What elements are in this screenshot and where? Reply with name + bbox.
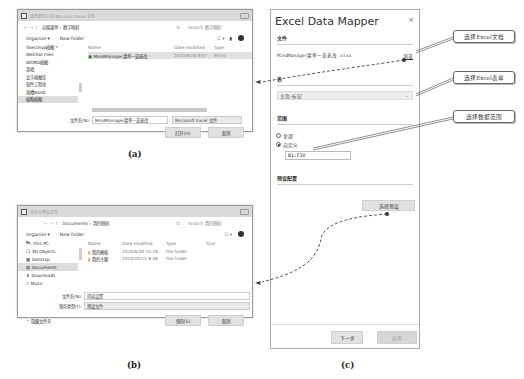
dialog-b-buttons: 保存(S) 取消 [165,315,244,326]
column-name[interactable]: Name [88,241,122,246]
savetype-select[interactable]: 预设文件 [84,302,250,310]
radio-custom[interactable]: 自定义 [276,140,419,149]
filename-row: 文件名(N): 简易设置 [18,291,252,301]
close-window-button[interactable] [240,209,249,215]
folder-type: File folder [166,249,187,254]
filename-input[interactable]: MindManager菜单一览表改 [92,116,168,124]
folder-row[interactable]: ▮ 我的主题 2020/10/15 8:48 File folder [88,255,252,262]
range-section-heading: 范围 [277,114,413,125]
nav-item[interactable]: SketchUp插图 * [18,43,78,51]
desktop-icon: ▦ [26,257,30,262]
help-icon[interactable] [238,231,244,237]
folder-date: 2020/10/15 8:48 [122,256,166,261]
callout-choose-data-range: 选择数据范围 [453,110,515,123]
command-bar: Organize ▾ New folder ☷ ▾ ▮ [18,33,252,43]
cancel-button[interactable]: 取消 [208,127,244,138]
horizontal-scrollbar[interactable] [22,107,248,113]
nav-item-3d-objects[interactable]: ❒3D Objects [18,247,78,255]
dialog-b-titlebar: 另存为预设文件 [18,206,252,217]
next-button[interactable]: 下一步 [331,331,363,344]
folder-row[interactable]: ▮ 我的模板 2020/6/30 15:28 File folder [88,248,252,255]
nav-scrollbar[interactable] [78,43,84,107]
sheet-section-heading: 表 [277,75,413,86]
open-button[interactable]: 打开(O) [165,127,201,138]
view-options-icon[interactable]: ☷ ▾ [217,36,225,41]
nav-item[interactable]: 会字插图库 [18,73,78,81]
callout-choose-excel-document: 选择Excel文档 [453,30,515,43]
view-options-icon[interactable]: ☷ ▾ [224,232,232,237]
dialog-b-title: 另存为预设文件 [30,209,240,215]
browse-link[interactable]: 浏览 [403,52,413,59]
hide-folders-toggle[interactable]: ⌃ 隐藏文件夹 [26,318,165,324]
breadcrumb[interactable]: Documents › 我的映射 [62,220,176,226]
nav-item-desktop[interactable]: ▦Desktop [18,255,78,263]
column-type[interactable]: Type [166,241,206,246]
choose-preset-button[interactable]: 选择预设 [362,200,415,211]
file-section-heading: 文件 [277,34,413,45]
music-icon: ♪ [26,281,29,286]
caption-b: (b) [127,360,141,370]
panel-title: Excel Data Mapper [271,10,419,28]
filetype-select[interactable]: Microsoft Excel 文件 [172,116,242,124]
preview-pane-icon[interactable]: ▮ [230,36,232,41]
file-row[interactable]: ▣ MindManager菜单一览表改 2020/6/28 8:07 Micro [88,52,252,59]
cancel-button[interactable]: 取消 [208,315,244,326]
refresh-icon[interactable]: ↻ [176,25,180,30]
column-type[interactable]: Type [214,45,224,50]
save-button[interactable]: 保存(S) [165,315,201,326]
column-date-modified[interactable]: Date modified [122,241,166,246]
documents-icon: ▤ [26,265,30,270]
filename-input[interactable]: 简易设置 [84,292,250,300]
folder-name: ▮ 我的主题 [88,256,122,262]
nav-item-downloads[interactable]: ⬇Downloads [18,271,78,279]
folder-name: ▮ 我的模板 [88,249,122,255]
radio-button-checked[interactable] [276,142,281,147]
close-window-button[interactable] [240,13,249,19]
organize-button[interactable]: Organize ▾ [26,36,50,41]
file-list-header: Name Date modified Type Size [88,239,252,248]
nav-arrows[interactable]: ← → ↑ [24,25,38,30]
nav-item-documents[interactable]: ▤Documents [18,263,78,271]
nav-scrollbar[interactable] [78,239,84,289]
app-icon [21,13,27,19]
open-file-dialog: 选择要导入的 Microsoft Excel 文件 ← → ↑ 功能菜单 › 数… [17,9,253,132]
nav-item-music[interactable]: ♪Music [18,279,78,287]
breadcrumb[interactable]: 功能菜单 › 数字映射 [42,24,176,30]
refresh-icon[interactable]: ↻ [176,221,180,226]
nav-item-this-pc[interactable]: 🖳This PC [18,239,78,247]
selected-file-name: MindManager菜单一览表改.xlsx [277,52,403,58]
organize-button[interactable]: Organize ▾ [26,232,50,237]
apply-button[interactable]: 应用 [377,331,417,344]
range-input[interactable]: B1:F30 [285,151,351,160]
nav-item[interactable]: WORD插图 [18,58,78,66]
nav-item[interactable]: WeChat Files [18,51,78,59]
sheet-select[interactable]: 主页-标记 ⌄ [277,91,413,100]
callout-choose-excel-sheet: 选择Excel表单 [453,71,515,84]
new-folder-button[interactable]: New folder [60,232,84,237]
dialog-b-body: 🖳This PC ❒3D Objects ▦Desktop ▤Documents… [18,239,252,289]
command-bar: Organize ▾ New folder ☷ ▾ [18,229,252,239]
search-input[interactable]: Search 我的映射 [188,220,246,226]
nav-item[interactable]: 拾槽BanD [18,88,78,96]
radio-button[interactable] [276,133,281,138]
nav-item-selected[interactable]: 缩略插图 [18,96,78,104]
caption-c: (c) [341,360,354,370]
dialog-b-footer: ⌃ 隐藏文件夹 保存(S) 取消 [18,315,252,326]
search-input[interactable]: Search 数字映射 [188,24,246,30]
folder-type: File folder [166,256,187,261]
file-name: ▣ MindManager菜单一览表改 [88,53,174,59]
column-name[interactable]: Name [88,45,174,50]
column-size[interactable]: Size [206,241,215,246]
new-folder-button[interactable]: New folder [60,36,84,41]
column-date-modified[interactable]: Date modified [174,45,214,50]
dialog-a-title: 选择要导入的 Microsoft Excel 文件 [30,13,240,19]
dialog-a-buttons: 打开(O) 取消 [18,127,252,138]
savetype-row: 保存类型(T): 预设文件 [18,301,252,311]
file-list: Name Date modified Type ▣ MindManager菜单一… [84,43,252,107]
nav-arrows[interactable]: ← → ↑ [44,221,58,226]
nav-item[interactable]: 软件工程化 [18,81,78,89]
close-icon[interactable]: × [408,16,414,24]
radio-all[interactable]: 全部 [276,131,419,140]
help-icon[interactable] [238,35,244,41]
nav-item[interactable]: 游戏 [18,66,78,74]
